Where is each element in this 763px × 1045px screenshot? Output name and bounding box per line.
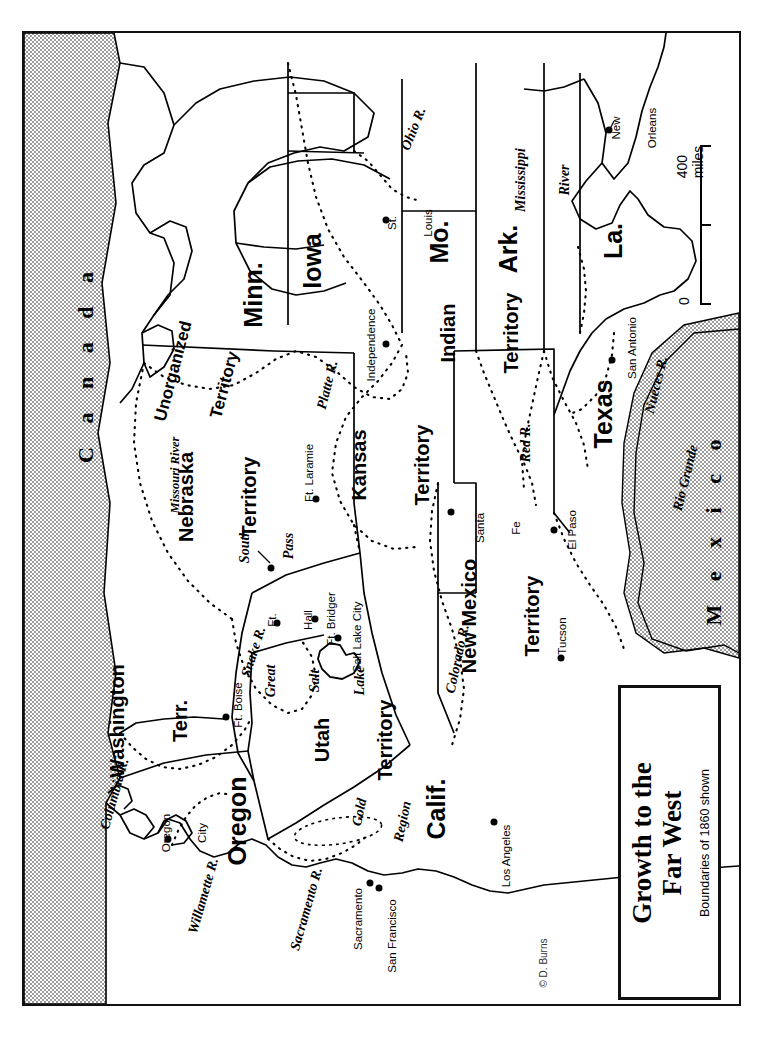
dot-south-pass: [268, 565, 275, 572]
dot-los-angeles: [491, 819, 498, 826]
dot-new-orleans: [606, 127, 613, 134]
dot-ft-boise: [223, 714, 230, 721]
map-title-line1: Growth to the: [627, 762, 657, 924]
dot-independence: [383, 341, 390, 348]
mexico-region: [622, 313, 739, 658]
dot-santa-fe: [448, 509, 455, 516]
scale-tick-min: [700, 303, 711, 305]
map-frame: C a n a d a M e x i c o Minn. Iowa Mo. A…: [22, 31, 741, 1006]
dot-san-francisco: [376, 885, 383, 892]
dot-oregon-city: [165, 836, 172, 843]
great-salt-lake-shape: [318, 643, 360, 679]
map-page: C a n a d a M e x i c o Minn. Iowa Mo. A…: [0, 0, 763, 1045]
dot-tucson: [558, 655, 565, 662]
map-title: Growth to the Far West: [627, 762, 687, 924]
dot-ft-hall: [274, 620, 281, 627]
south-pass-leader: [258, 551, 270, 563]
title-cartouche-inner: Growth to the Far West Boundaries of 186…: [627, 762, 712, 924]
dot-st-louis: [383, 217, 390, 224]
scale-label-max: 400 miles: [674, 146, 706, 179]
map-subtitle: Boundaries of 1860 shown: [698, 762, 712, 924]
dot-ft-bridger: [312, 616, 319, 623]
scale-label-min: 0: [676, 297, 692, 305]
map-credit: © D. Burns: [538, 938, 549, 987]
gold-region-ellipse: [293, 812, 384, 850]
dot-sacramento: [367, 880, 374, 887]
dot-salt-lake-city: [335, 635, 342, 642]
scale-tick-mid: [700, 224, 711, 226]
dot-ft-laramie: [313, 496, 320, 503]
canada-region: [24, 33, 120, 1004]
map-title-line2: Far West: [657, 762, 687, 924]
title-cartouche: Growth to the Far West Boundaries of 186…: [618, 685, 721, 1000]
dot-san-antonio: [609, 357, 616, 364]
dot-el-paso: [551, 527, 558, 534]
